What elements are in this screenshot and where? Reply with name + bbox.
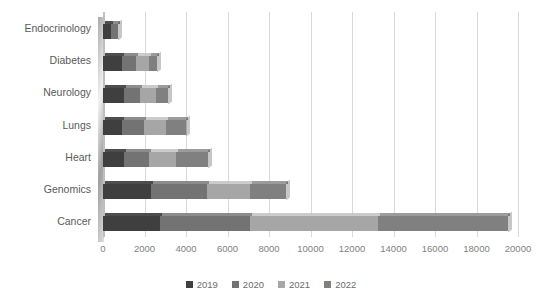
x-tick-label: 18000 — [463, 243, 489, 254]
bar-segment[interactable] — [151, 184, 207, 199]
gridline — [228, 12, 229, 237]
bar-segment[interactable] — [103, 88, 124, 103]
x-tick-label: 10000 — [297, 243, 323, 254]
x-tick-label: 20000 — [505, 243, 531, 254]
category-label: Heart — [65, 151, 91, 163]
x-tick-label: 6000 — [217, 243, 238, 254]
bar-segment[interactable] — [103, 152, 124, 167]
bar-segment[interactable] — [250, 216, 378, 231]
bar-segment[interactable] — [207, 184, 251, 199]
bar-segment[interactable] — [149, 152, 176, 167]
bar-end-cap — [118, 19, 122, 40]
bar-segment[interactable] — [103, 216, 160, 231]
gridline — [311, 12, 312, 237]
legend-label: 2021 — [289, 279, 310, 290]
x-tick-label: 0 — [100, 243, 105, 254]
bar-segment[interactable] — [166, 120, 186, 135]
bar-segment[interactable] — [122, 56, 137, 71]
bar-end-cap — [168, 83, 172, 104]
bar-segment[interactable] — [149, 56, 157, 71]
bar-end-cap — [508, 212, 512, 233]
bar-segment[interactable] — [103, 56, 122, 71]
category-label: Neurology — [43, 86, 91, 98]
bar-row[interactable] — [103, 184, 286, 199]
bar-row[interactable] — [103, 152, 208, 167]
bar-row[interactable] — [103, 56, 157, 71]
legend-item[interactable]: 2021 — [278, 279, 310, 290]
legend-label: 2020 — [243, 279, 264, 290]
bar-segment[interactable] — [156, 88, 168, 103]
legend-label: 2022 — [335, 279, 356, 290]
gridline — [477, 12, 478, 237]
legend-item[interactable]: 2022 — [324, 279, 356, 290]
category-label: Diabetes — [50, 54, 91, 66]
legend-label: 2019 — [197, 279, 218, 290]
legend-item[interactable]: 2020 — [232, 279, 264, 290]
bar-row[interactable] — [103, 216, 508, 231]
bar-row[interactable] — [103, 24, 118, 39]
bar-segment[interactable] — [144, 120, 166, 135]
x-tick-label: 16000 — [422, 243, 448, 254]
category-label: Endocrinology — [24, 22, 91, 34]
gridline — [518, 12, 519, 237]
stacked-bar-chart: EndocrinologyDiabetesNeurologyLungsHeart… — [0, 0, 542, 304]
bar-end-cap — [157, 51, 161, 72]
bar-segment[interactable] — [124, 152, 149, 167]
bar-segment[interactable] — [122, 120, 145, 135]
bar-segment[interactable] — [103, 24, 111, 39]
plot-area — [103, 12, 518, 237]
category-label: Genomics — [44, 183, 91, 195]
legend-swatch-icon — [278, 281, 285, 288]
bar-segment[interactable] — [124, 88, 141, 103]
legend-swatch-icon — [232, 281, 239, 288]
x-tick-label: 4000 — [175, 243, 196, 254]
bar-segment[interactable] — [140, 88, 156, 103]
bar-segment[interactable] — [176, 152, 208, 167]
gridline — [269, 12, 270, 237]
gridline — [352, 12, 353, 237]
bar-segment[interactable] — [103, 184, 151, 199]
x-tick-label: 12000 — [339, 243, 365, 254]
x-tick-label: 8000 — [258, 243, 279, 254]
bar-segment[interactable] — [103, 120, 122, 135]
x-tick-label: 2000 — [134, 243, 155, 254]
bar-segment[interactable] — [136, 56, 148, 71]
bar-end-cap — [286, 180, 290, 201]
gridline — [394, 12, 395, 237]
legend-swatch-icon — [186, 281, 193, 288]
bar-segment[interactable] — [160, 216, 250, 231]
category-axis-labels: EndocrinologyDiabetesNeurologyLungsHeart… — [0, 0, 97, 237]
bar-segment[interactable] — [378, 216, 508, 231]
x-tick-label: 14000 — [380, 243, 406, 254]
bar-segment[interactable] — [250, 184, 285, 199]
bar-segment[interactable] — [111, 24, 117, 39]
bar-end-cap — [186, 115, 190, 136]
chart-legend: 2019202020212022 — [0, 279, 542, 290]
gridline — [435, 12, 436, 237]
category-label: Cancer — [57, 215, 91, 227]
legend-swatch-icon — [324, 281, 331, 288]
bar-row[interactable] — [103, 88, 168, 103]
bar-row[interactable] — [103, 120, 186, 135]
legend-item[interactable]: 2019 — [186, 279, 218, 290]
category-label: Lungs — [62, 119, 91, 131]
bar-end-cap — [208, 148, 212, 169]
